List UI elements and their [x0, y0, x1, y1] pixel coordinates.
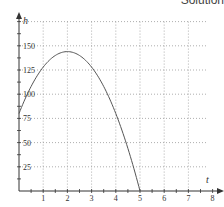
axes [16, 12, 224, 194]
x-tick-label: 4 [114, 194, 118, 203]
grid-lines [19, 22, 208, 191]
data-curve [19, 52, 140, 191]
x-tick-label: 3 [90, 194, 94, 203]
x-tick-label: 8 [211, 194, 215, 203]
x-tick-label: 7 [186, 194, 190, 203]
y-axis-label: h [23, 15, 28, 26]
x-tick-label: 2 [65, 194, 69, 203]
x-axis-arrow-icon [217, 188, 224, 194]
axis-ticks [17, 22, 213, 193]
x-tick-label: 5 [138, 194, 142, 203]
x-axis-label: t [206, 174, 209, 185]
y-tick-label: 25 [23, 163, 31, 172]
y-tick-label: 150 [23, 42, 35, 51]
y-tick-label: 75 [23, 114, 31, 123]
y-axis-arrow-icon [16, 12, 22, 19]
y-tick-label: 125 [23, 66, 35, 75]
x-tick-label: 6 [162, 194, 166, 203]
y-tick-label: 50 [23, 139, 31, 148]
x-tick-label: 1 [41, 194, 45, 203]
chart-plot: 12345678255075100125150 t h [0, 0, 224, 207]
